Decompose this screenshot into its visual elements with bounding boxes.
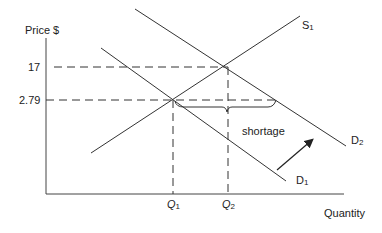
s1-label: S1 <box>302 20 314 31</box>
shortage-brace <box>175 100 276 112</box>
demand-curve-d2 <box>135 9 346 146</box>
q1-label: Q1 <box>167 199 180 210</box>
d2-label: D2 <box>351 135 363 146</box>
d1-label: D1 <box>296 175 308 186</box>
q2-label: Q2 <box>222 199 235 210</box>
price-tick-17: 17 <box>28 62 40 73</box>
price-tick-2.79: 2.79 <box>19 95 40 106</box>
x-axis-label: Quantity <box>324 208 365 219</box>
demand-curve-d1 <box>101 48 286 181</box>
shortage-label: shortage <box>242 126 285 137</box>
shift-arrow-icon <box>277 140 312 170</box>
y-axis-label: Price $ <box>25 25 59 36</box>
